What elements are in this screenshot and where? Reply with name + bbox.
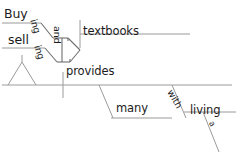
word-buy: Buy bbox=[4, 8, 28, 21]
word-living: living bbox=[190, 105, 220, 117]
word-many: many bbox=[116, 103, 148, 115]
conjunction-arrow-upper bbox=[68, 38, 80, 50]
word-textbooks: textbooks bbox=[83, 26, 139, 38]
sentence-diagram: Buy ing sell ing and textbooks provides … bbox=[0, 0, 240, 159]
word-and: and bbox=[53, 26, 63, 44]
conjunction-arrow-lower bbox=[70, 50, 80, 62]
article-a-slant bbox=[203, 112, 219, 152]
word-ing-buy: ing bbox=[29, 18, 42, 34]
word-provides: provides bbox=[66, 66, 114, 78]
many-slant bbox=[99, 85, 113, 118]
word-ing-sell: ing bbox=[33, 44, 46, 60]
subject-support-right bbox=[22, 62, 36, 85]
subject-support-left bbox=[8, 62, 22, 85]
sell-ing-diagonal bbox=[45, 48, 57, 62]
word-sell: sell bbox=[8, 34, 29, 47]
